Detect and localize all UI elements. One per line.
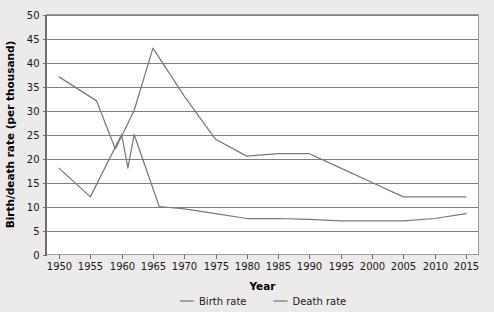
- x-axis-title: Year: [248, 280, 276, 292]
- y-tick-label: 0: [33, 250, 39, 261]
- svg-text:Birth/death rate (per thousand: Birth/death rate (per thousand): [4, 41, 16, 229]
- x-tick-label: 1975: [204, 261, 229, 272]
- x-tick-label: 1960: [110, 261, 135, 272]
- y-tick-label: 40: [27, 58, 40, 69]
- y-tick-label: 35: [27, 82, 40, 93]
- x-tick-label: 2000: [360, 261, 385, 272]
- x-axis-ticks: 1950195519601965197019751980198519901995…: [47, 255, 479, 273]
- y-tick-label: 10: [27, 202, 40, 213]
- legend-label: Death rate: [293, 296, 347, 307]
- y-axis-ticks: 05101520253035404550: [27, 10, 47, 261]
- x-tick-label: 1955: [78, 261, 103, 272]
- x-tick-label: 1970: [172, 261, 197, 272]
- x-tick-label: 1990: [297, 261, 322, 272]
- x-tick-label: 1965: [141, 261, 166, 272]
- y-tick-label: 15: [27, 178, 40, 189]
- y-tick-label: 25: [27, 130, 40, 141]
- x-tick-label: 1995: [329, 261, 354, 272]
- svg-text:Year: Year: [248, 280, 276, 292]
- legend-label: Birth rate: [199, 296, 247, 307]
- y-tick-label: 45: [27, 34, 40, 45]
- y-axis-title: Birth/death rate (per thousand): [4, 41, 16, 229]
- chart-container: 05101520253035404550 1950195519601965197…: [0, 0, 494, 312]
- x-tick-label: 1980: [235, 261, 260, 272]
- x-tick-label: 1950: [47, 261, 72, 272]
- y-tick-label: 50: [27, 10, 40, 21]
- x-tick-label: 2015: [454, 261, 479, 272]
- legend-item-death-rate[interactable]: Death rate: [274, 296, 347, 307]
- x-tick-label: 2005: [391, 261, 416, 272]
- chart-legend: Birth rateDeath rate: [180, 296, 346, 307]
- x-tick-label: 1985: [266, 261, 291, 272]
- y-tick-label: 30: [27, 106, 40, 117]
- line-chart: 05101520253035404550 1950195519601965197…: [0, 0, 494, 312]
- legend-item-birth-rate[interactable]: Birth rate: [180, 296, 247, 307]
- y-tick-label: 5: [33, 226, 39, 237]
- x-tick-label: 2010: [423, 261, 448, 272]
- y-tick-label: 20: [27, 154, 40, 165]
